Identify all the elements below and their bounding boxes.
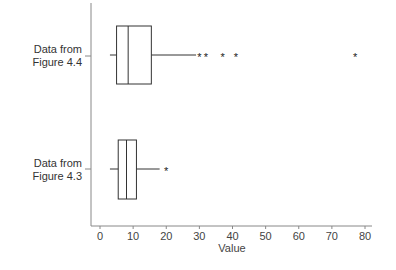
x-tick-label: 10 bbox=[127, 230, 139, 242]
outlier-marker: * bbox=[164, 165, 169, 177]
boxes: ****** bbox=[110, 26, 358, 199]
x-tick-label: 20 bbox=[160, 230, 172, 242]
x-tick-label: 0 bbox=[97, 230, 103, 242]
iqr-box bbox=[117, 26, 152, 84]
boxplot-chart: 01020304050607080 Value ****** bbox=[0, 0, 396, 270]
iqr-box bbox=[118, 140, 136, 199]
x-tick-label: 70 bbox=[326, 230, 338, 242]
box-figure-4-3: * bbox=[110, 140, 169, 199]
box-figure-4-4: ***** bbox=[110, 26, 358, 84]
x-tick-label: 60 bbox=[293, 230, 305, 242]
outlier-marker: * bbox=[234, 51, 239, 63]
outlier-marker: * bbox=[204, 51, 209, 63]
x-ticks: 01020304050607080 bbox=[97, 226, 371, 242]
x-tick-label: 50 bbox=[260, 230, 272, 242]
outlier-marker: * bbox=[197, 51, 202, 63]
x-axis-title: Value bbox=[218, 242, 245, 254]
outlier-marker: * bbox=[353, 51, 358, 63]
x-tick-label: 40 bbox=[226, 230, 238, 242]
outlier-marker: * bbox=[220, 51, 225, 63]
x-tick-label: 80 bbox=[359, 230, 371, 242]
x-tick-label: 30 bbox=[193, 230, 205, 242]
